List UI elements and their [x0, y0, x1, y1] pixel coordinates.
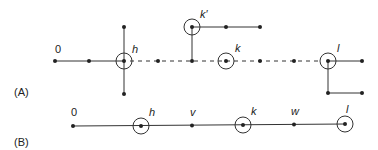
panel-b-label: (B) — [14, 136, 29, 148]
node-label-v: v — [190, 106, 197, 118]
tree-diagram: (A) — [0, 0, 378, 150]
panel-a: (A) — [14, 8, 364, 98]
node-label-h: h — [149, 106, 155, 118]
node-label-h: h — [132, 43, 138, 55]
node-label-l: l — [337, 42, 340, 54]
node-label-0: 0 — [55, 43, 61, 55]
path-line — [73, 124, 345, 126]
panel-a-label: (A) — [14, 86, 29, 98]
node-label-w: w — [291, 105, 300, 117]
node-label-k: k — [251, 105, 257, 117]
node-label-k: k — [235, 42, 241, 54]
panel-b: (B) 0 h v k w l — [14, 103, 353, 148]
node-label-kprime: k′ — [200, 8, 209, 20]
node-label-l: l — [346, 103, 349, 115]
node-label-0: 0 — [71, 106, 77, 118]
